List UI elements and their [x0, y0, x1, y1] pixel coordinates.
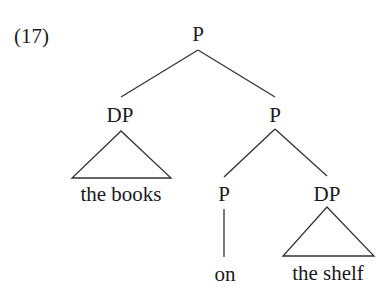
branch-p-to-lower-dp — [275, 129, 327, 176]
branch-root-to-p — [198, 50, 275, 97]
node-dp-lower: DP — [314, 183, 341, 205]
example-number: (17) — [14, 25, 49, 47]
node-root-p: P — [192, 23, 204, 45]
syntax-tree-diagram: (17) P DP P the books P DP on the shelf — [0, 0, 392, 296]
node-dp-left: DP — [107, 104, 134, 126]
branch-root-to-dp — [121, 50, 198, 97]
terminal-the-shelf: the shelf — [292, 262, 364, 284]
node-p-right: P — [269, 104, 281, 126]
node-p-lower: P — [218, 183, 230, 205]
terminal-on: on — [215, 263, 236, 285]
terminal-the-books: the books — [80, 183, 161, 205]
triangle-the-books — [72, 131, 171, 178]
triangle-the-shelf — [283, 207, 374, 256]
branch-p-to-lower-p — [224, 129, 275, 177]
